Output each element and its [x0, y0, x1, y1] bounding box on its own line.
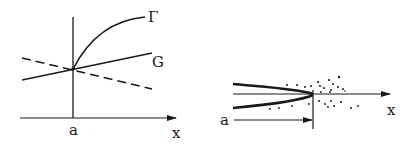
figure-canvas: Γ G a x	[0, 0, 409, 145]
lower-boundary	[233, 95, 313, 108]
upper-boundary	[233, 84, 313, 94]
left-axis-label-x: x	[172, 124, 181, 142]
gamma-label: Γ	[148, 8, 158, 26]
right-axis-label-x: x	[387, 101, 396, 119]
intersection-point	[71, 67, 75, 71]
left-tick-label-a: a	[69, 121, 78, 139]
scattered-particles	[269, 76, 359, 110]
left-panel: Γ G a x	[20, 8, 181, 142]
right-panel: a x	[220, 76, 396, 129]
g-line	[22, 53, 152, 80]
right-arrow-label-a: a	[220, 111, 229, 129]
g-label: G	[152, 53, 164, 71]
dashed-line	[22, 58, 152, 89]
